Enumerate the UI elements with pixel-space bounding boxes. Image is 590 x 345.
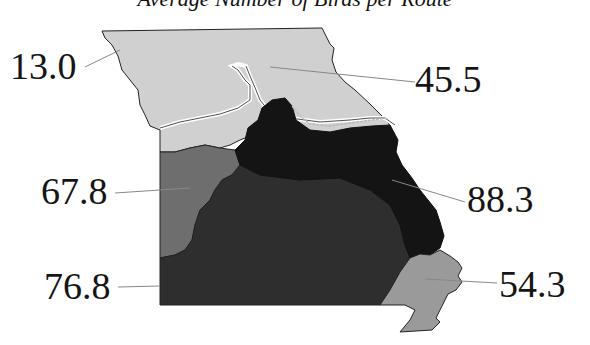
value-label-west: 67.8 — [41, 172, 108, 210]
value-label-northwest: 13.0 — [10, 47, 77, 85]
leader-line-76 — [118, 286, 160, 287]
value-label-ozarks: 76.8 — [44, 267, 111, 305]
value-label-southeast: 54.3 — [499, 265, 566, 303]
value-label-north: 45.5 — [415, 60, 482, 98]
leader-line-13 — [85, 50, 120, 67]
value-label-east-central: 88.3 — [467, 180, 534, 218]
